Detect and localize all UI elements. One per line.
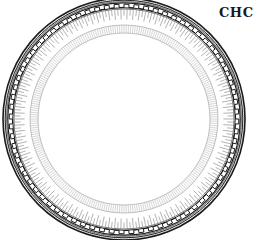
- caption-text: CHC: [219, 5, 253, 20]
- greek-key-border: [9, 4, 239, 234]
- plate-illustration: [0, 0, 258, 240]
- inner-ring: [30, 25, 218, 213]
- hatched-fringe: [15, 10, 234, 229]
- outer-band: [3, 0, 245, 240]
